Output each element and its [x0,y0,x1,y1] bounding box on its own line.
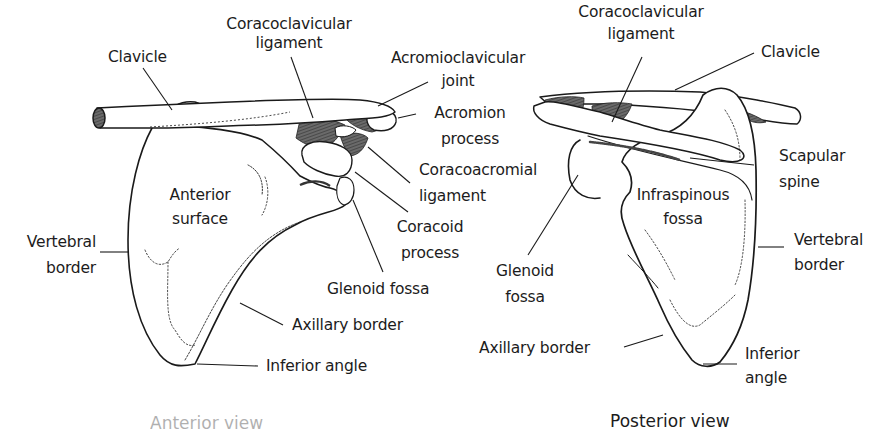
label-line-1: Coracoclavicular [570,3,712,22]
label-glenoid-fossa-anterior: Glenoid fossa [327,280,429,299]
label-line-2: ligament [419,187,537,206]
label-line-2: border [794,256,863,275]
label-line-1: Scapular [779,147,845,166]
label-inferior-angle-anterior: Inferior angle [266,357,367,376]
label-line-1: Coracoacromial [419,161,537,180]
label-line-1: Acromion [420,104,520,123]
label-infraspinous-fossa: Infraspinous fossa [628,186,738,229]
label-clavicle-posterior: Clavicle [761,43,820,62]
label-axillary-border-posterior: Axillary border [479,339,590,358]
label-line-1: Infraspinous [628,186,738,205]
label-clavicle-anterior: Clavicle [108,48,167,67]
label-acromion-process: Acromion process [420,104,520,149]
label-line-2: spine [779,173,845,192]
caption-posterior-view: Posterior view [610,411,730,431]
label-coracoid-process: Coracoid process [380,218,480,263]
label-coracoclavicular-posterior: Coracoclavicular ligament [570,3,712,44]
label-line-2: angle [745,369,799,388]
label-line-2: surface [150,210,250,229]
anterior-clavicle [93,99,395,128]
label-glenoid-fossa-posterior: Glenoid fossa [480,262,570,307]
label-vertebral-border-anterior: Vertebral border [8,233,96,278]
label-inferior-angle-posterior: Inferior angle [745,345,799,388]
label-line-1: Acromioclavicular [387,49,529,68]
label-line-2: ligament [570,25,712,44]
caption-anterior-view: Anterior view [150,413,263,433]
label-line-2: fossa [480,288,570,307]
label-vertebral-border-posterior: Vertebral border [794,231,863,275]
label-line-1: Inferior [745,345,799,364]
label-line-1: Vertebral [8,233,96,252]
label-coracoacromial-ligament: Coracoacromial ligament [419,161,537,206]
label-line-1: Coracoid [380,218,480,237]
label-line-2: fossa [628,210,738,229]
label-axillary-border-anterior: Axillary border [292,316,403,335]
label-acromioclavicular-joint: Acromioclavicular joint [387,49,529,91]
label-line-2: process [380,244,480,263]
label-anterior-surface: Anterior surface [150,186,250,229]
label-line-1: Anterior [150,186,250,205]
label-coracoclavicular-anterior: Coracoclavicular ligament [218,15,360,53]
label-line-1: Coracoclavicular [218,15,360,34]
label-scapular-spine: Scapular spine [779,147,845,192]
label-line-2: border [8,259,96,278]
label-line-2: joint [387,72,529,91]
label-line-1: Vertebral [794,231,863,250]
label-line-2: ligament [218,34,360,53]
label-line-1: Glenoid [480,262,570,281]
label-line-2: process [420,130,520,149]
